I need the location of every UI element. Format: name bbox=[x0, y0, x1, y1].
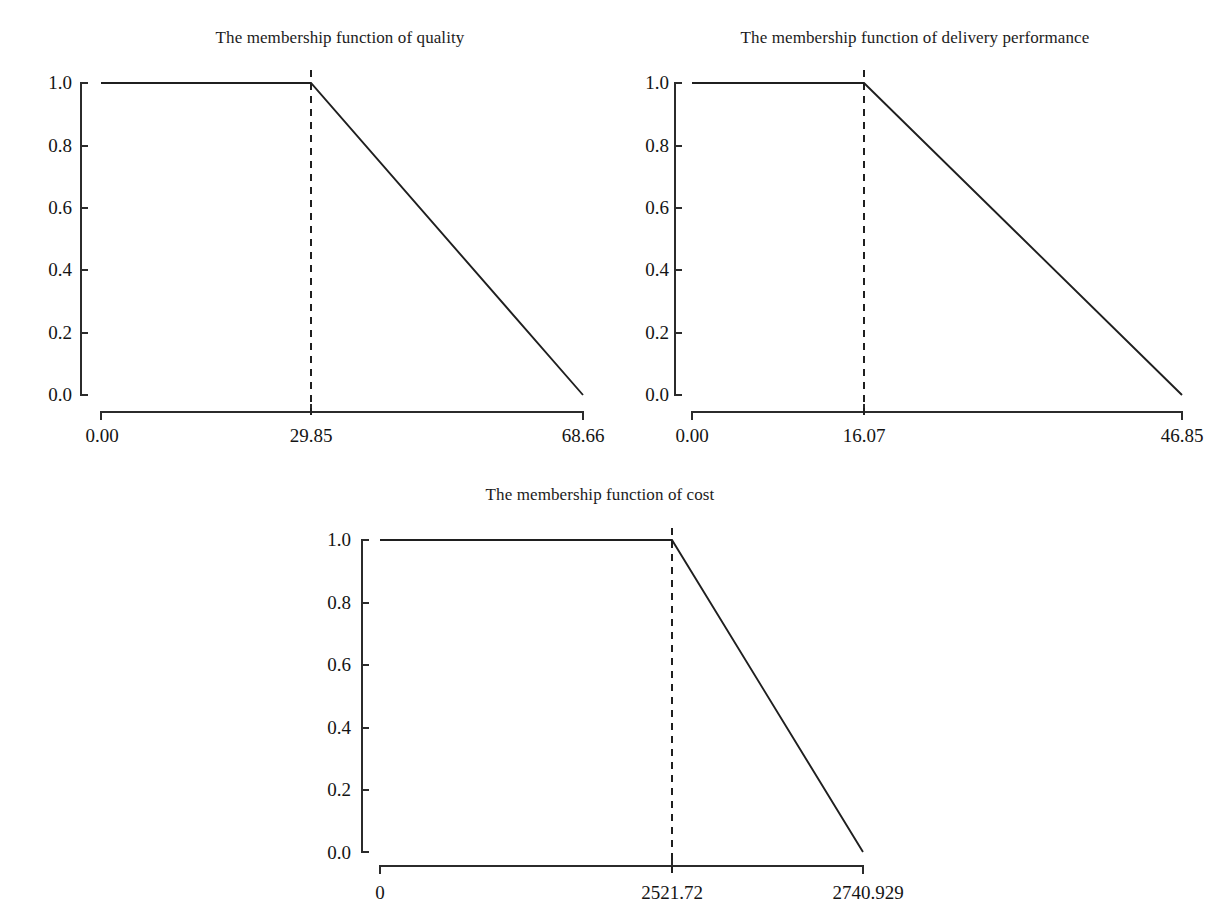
chart-panel-quality: The membership function of quality 1.0 0… bbox=[0, 0, 620, 460]
plot-area-quality bbox=[0, 0, 620, 460]
figure-canvas: The membership function of quality 1.0 0… bbox=[0, 0, 1225, 924]
chart-panel-cost: The membership function of cost 1.0 0.8 … bbox=[280, 470, 920, 924]
plot-area-delivery-performance bbox=[605, 0, 1225, 460]
plot-area-cost bbox=[280, 470, 920, 924]
chart-panel-delivery-performance: The membership function of delivery perf… bbox=[605, 0, 1225, 460]
